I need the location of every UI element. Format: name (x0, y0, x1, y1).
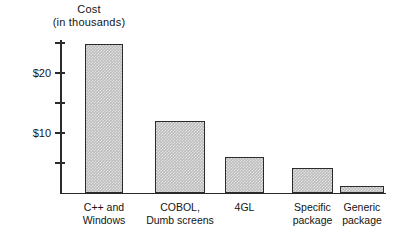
bar-specific-package (292, 168, 333, 193)
bar-generic-package (340, 186, 384, 193)
bar-cobol-dumb (155, 121, 205, 193)
bar-cpp-windows (85, 44, 123, 193)
x-label-generic-package: Generic package (312, 201, 394, 227)
bar-4gl (225, 157, 264, 193)
bar-chart: Cost (in thousands) $10 $20 C++ and Wind… (0, 0, 394, 242)
